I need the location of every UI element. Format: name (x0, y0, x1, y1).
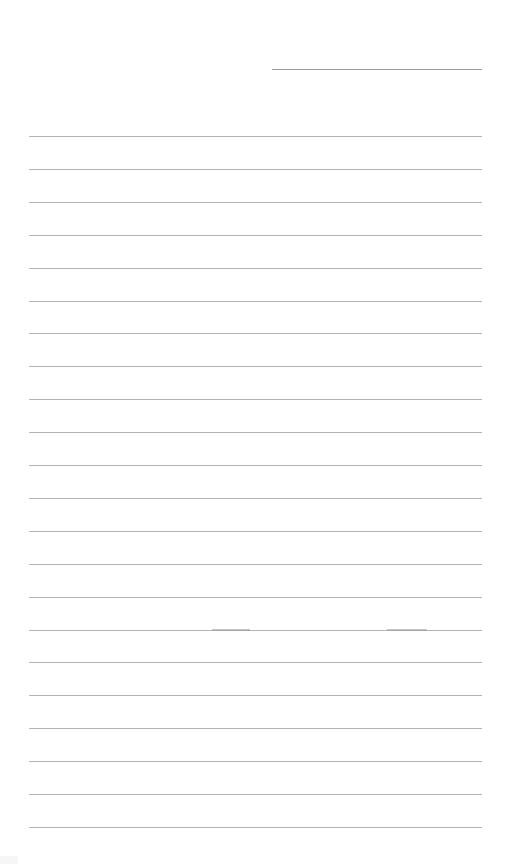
ruled-line (29, 432, 482, 433)
ruled-line (29, 399, 482, 400)
ruled-line (29, 531, 482, 532)
ruled-line (29, 136, 482, 137)
ruled-line (29, 761, 482, 762)
ruled-line (29, 366, 482, 367)
ruled-line (29, 465, 482, 466)
pencil-smudge (387, 629, 427, 631)
ruled-line (29, 695, 482, 696)
ruled-line (29, 202, 482, 203)
ruled-line (29, 597, 482, 598)
ruled-line (29, 728, 482, 729)
ruled-line (29, 333, 482, 334)
ruled-line (29, 662, 482, 663)
ruled-line (29, 235, 482, 236)
ruled-line (29, 498, 482, 499)
lined-paper-page (0, 0, 529, 864)
header-name-line (272, 69, 482, 70)
scan-corner-artifact (0, 856, 18, 864)
ruled-line (29, 794, 482, 795)
ruled-line (29, 827, 482, 828)
ruled-line (29, 268, 482, 269)
ruled-line (29, 564, 482, 565)
ruled-line (29, 301, 482, 302)
ruled-line (29, 169, 482, 170)
pencil-smudge (212, 629, 250, 631)
